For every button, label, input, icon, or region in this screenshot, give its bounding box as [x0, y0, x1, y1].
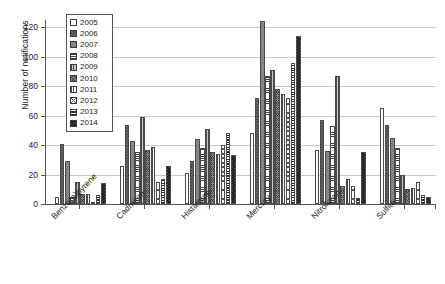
- bar-2006[interactable]: [320, 120, 325, 204]
- legend-item-2010[interactable]: 2010: [70, 73, 109, 84]
- legend-swatch-icon: [70, 97, 77, 104]
- y-axis-tick: [41, 175, 46, 176]
- legend-swatch-icon: [70, 53, 77, 60]
- legend-label: 2008: [80, 52, 98, 60]
- legend-item-2012[interactable]: 2012: [70, 95, 109, 106]
- x-axis-label: Sulfite: [374, 197, 398, 221]
- bar-2012[interactable]: [156, 182, 161, 204]
- legend-item-2013[interactable]: 2013: [70, 107, 109, 118]
- legend-swatch-icon: [70, 41, 77, 48]
- y-axis-tick: [41, 86, 46, 87]
- y-axis-tick-label: 120: [24, 22, 38, 32]
- x-axis-tick: [209, 204, 210, 209]
- legend-label: 2012: [80, 97, 98, 105]
- legend-swatch-icon: [70, 19, 77, 26]
- bar-group-sulfite: [380, 20, 431, 204]
- bar-2012[interactable]: [221, 145, 226, 204]
- legend-label: 2006: [80, 30, 98, 38]
- bar-2009[interactable]: [400, 175, 405, 204]
- legend-label: 2013: [80, 108, 98, 116]
- bar-2009[interactable]: [335, 76, 340, 204]
- legend-swatch-icon: [70, 75, 77, 82]
- bar-2013[interactable]: [356, 198, 361, 204]
- legend-label: 2005: [80, 19, 98, 27]
- bar-2011[interactable]: [281, 94, 286, 204]
- bar-group-histamine: [185, 20, 236, 204]
- bar-2006[interactable]: [255, 98, 260, 204]
- x-axis-tick: [435, 204, 436, 209]
- bar-2006[interactable]: [60, 144, 65, 204]
- bar-2005[interactable]: [120, 166, 125, 204]
- y-axis-tick: [41, 116, 46, 117]
- bar-2007[interactable]: [260, 21, 265, 204]
- y-axis-tick: [41, 204, 46, 205]
- bar-2008[interactable]: [265, 76, 270, 204]
- x-axis-tick: [339, 204, 340, 209]
- legend-swatch-icon: [70, 86, 77, 93]
- bar-2012[interactable]: [286, 98, 291, 204]
- x-axis-tick: [79, 204, 80, 209]
- y-axis-tick-label: 100: [24, 52, 38, 62]
- bar-2014[interactable]: [361, 152, 366, 204]
- legend-label: 2007: [80, 41, 98, 49]
- legend-swatch-icon: [70, 120, 77, 127]
- bar-2013[interactable]: [161, 179, 166, 204]
- bar-2014[interactable]: [426, 197, 431, 204]
- bar-2013[interactable]: [96, 195, 101, 204]
- bar-2008[interactable]: [395, 148, 400, 204]
- bar-2014[interactable]: [101, 183, 106, 204]
- bar-2011[interactable]: [411, 188, 416, 204]
- legend-item-2005[interactable]: 2005: [70, 17, 109, 28]
- x-axis-tick: [144, 204, 145, 209]
- legend-item-2014[interactable]: 2014: [70, 118, 109, 129]
- bar-2012[interactable]: [91, 202, 96, 204]
- bar-2012[interactable]: [351, 186, 356, 204]
- y-axis-tick: [41, 57, 46, 58]
- bar-2005[interactable]: [380, 108, 385, 204]
- legend-label: 2009: [80, 63, 98, 71]
- bar-group-mercury: [250, 20, 301, 204]
- bar-2013[interactable]: [226, 133, 231, 204]
- bar-2013[interactable]: [291, 63, 296, 204]
- bar-2010[interactable]: [210, 152, 215, 204]
- bar-2014[interactable]: [296, 36, 301, 204]
- bar-2010[interactable]: [405, 189, 410, 204]
- legend-item-2006[interactable]: 2006: [70, 28, 109, 39]
- bar-group-cadmium: [120, 20, 171, 204]
- bar-2011[interactable]: [216, 154, 221, 204]
- y-axis-tick-label: 40: [29, 140, 38, 150]
- bar-2011[interactable]: [86, 194, 91, 204]
- y-axis-tick-label: 80: [29, 81, 38, 91]
- legend-item-2011[interactable]: 2011: [70, 84, 109, 95]
- chart-root: Number of notifications 020406080100120 …: [0, 0, 445, 284]
- bar-2005[interactable]: [315, 150, 320, 204]
- bar-2010[interactable]: [275, 89, 280, 204]
- bar-2014[interactable]: [166, 166, 171, 204]
- bar-2006[interactable]: [385, 125, 390, 204]
- bar-2011[interactable]: [151, 147, 156, 204]
- bar-2005[interactable]: [185, 173, 190, 204]
- bar-2014[interactable]: [231, 155, 236, 204]
- x-axis-tick: [404, 204, 405, 209]
- bar-2006[interactable]: [125, 125, 130, 204]
- legend-swatch-icon: [70, 64, 77, 71]
- bar-2009[interactable]: [270, 70, 275, 204]
- legend-label: 2014: [80, 119, 98, 127]
- y-axis-tick-label: 20: [29, 170, 38, 180]
- legend-label: 2010: [80, 75, 98, 83]
- bar-group-nitrofuran: [315, 20, 366, 204]
- y-axis-tick: [41, 145, 46, 146]
- y-axis-tick-label: 60: [29, 111, 38, 121]
- bar-2007[interactable]: [390, 138, 395, 204]
- legend-swatch-icon: [70, 109, 77, 116]
- legend-item-2008[interactable]: 2008: [70, 51, 109, 62]
- y-axis-tick-label: 0: [33, 199, 38, 209]
- bar-2011[interactable]: [346, 179, 351, 204]
- legend[interactable]: 2005200620072008200920102011201220132014: [66, 14, 113, 132]
- bar-2013[interactable]: [421, 195, 426, 204]
- legend-item-2009[interactable]: 2009: [70, 62, 109, 73]
- legend-item-2007[interactable]: 2007: [70, 39, 109, 50]
- bar-2012[interactable]: [416, 182, 421, 204]
- y-axis-tick: [41, 27, 46, 28]
- bar-2005[interactable]: [250, 133, 255, 204]
